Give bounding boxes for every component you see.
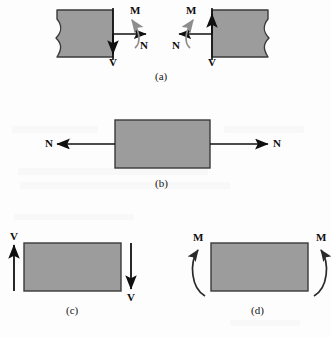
force-label-m: M [130, 5, 140, 16]
beam-block [115, 120, 210, 168]
force-label-n: N [140, 40, 148, 51]
moment-arrow-m-right [314, 250, 326, 296]
cut-block-right [212, 10, 269, 57]
force-label-v: V [127, 292, 135, 303]
panel-caption-c: (c) [66, 305, 78, 316]
force-label-m: M [186, 5, 196, 16]
force-label-n: N [273, 138, 281, 149]
force-label-v: V [10, 231, 18, 242]
force-label-m: M [193, 232, 203, 243]
panel-caption-d: (d) [251, 305, 264, 316]
force-label-v: V [109, 57, 117, 68]
beam-block [24, 243, 121, 291]
force-label-n: N [172, 40, 180, 51]
panel-c-shear [14, 243, 131, 291]
force-label-n: N [45, 138, 53, 149]
cut-block-left [56, 10, 113, 57]
panel-b-axial [57, 120, 268, 168]
beam-block [211, 243, 308, 291]
force-label-m: M [316, 232, 326, 243]
moment-arrow-m-left [193, 250, 205, 296]
force-label-v: V [208, 57, 216, 68]
panel-caption-a: (a) [155, 71, 167, 82]
panel-caption-b: (b) [155, 178, 168, 189]
panel-d-moment [193, 243, 327, 296]
force-resultant-figure [0, 0, 331, 337]
